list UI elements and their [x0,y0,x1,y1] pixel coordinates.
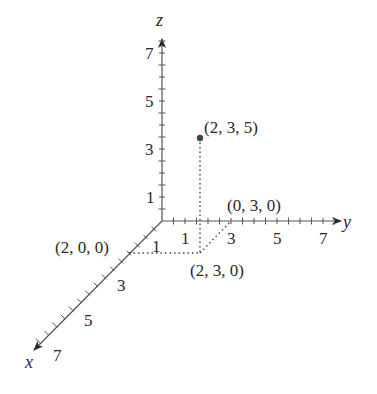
y-tick-label-5: 5 [273,229,282,248]
z-tick-label-3: 3 [145,140,154,159]
x-axis-label: x [24,352,33,372]
axis-ticks [36,41,335,343]
z-axis-label: z [155,10,163,30]
3d-axes-diagram: z y x 1 3 5 7 1 3 5 7 1 3 5 7 (2, 3, 5) … [0,0,377,394]
z-tick-label-5: 5 [145,92,154,111]
point-label-0-3-0: (0, 3, 0) [227,196,281,215]
point-2-3-5-dot [197,135,203,141]
point-label-2-0-0: (2, 0, 0) [55,238,109,257]
x-tick-label-1: 1 [152,237,161,256]
y-tick-label-3: 3 [227,229,236,248]
z-tick-label-7: 7 [145,44,154,63]
y-axis-label: y [341,212,351,232]
x-tick-label-3: 3 [117,276,126,295]
y-tick-label-1: 1 [181,229,190,248]
x-tick-label-5: 5 [84,311,93,330]
z-tick-label-1: 1 [146,188,155,207]
point-label-2-3-5: (2, 3, 5) [204,118,258,137]
y-tick-label-7: 7 [319,229,328,248]
point-label-2-3-0: (2, 3, 0) [190,261,244,280]
x-tick-label-7: 7 [53,346,62,365]
